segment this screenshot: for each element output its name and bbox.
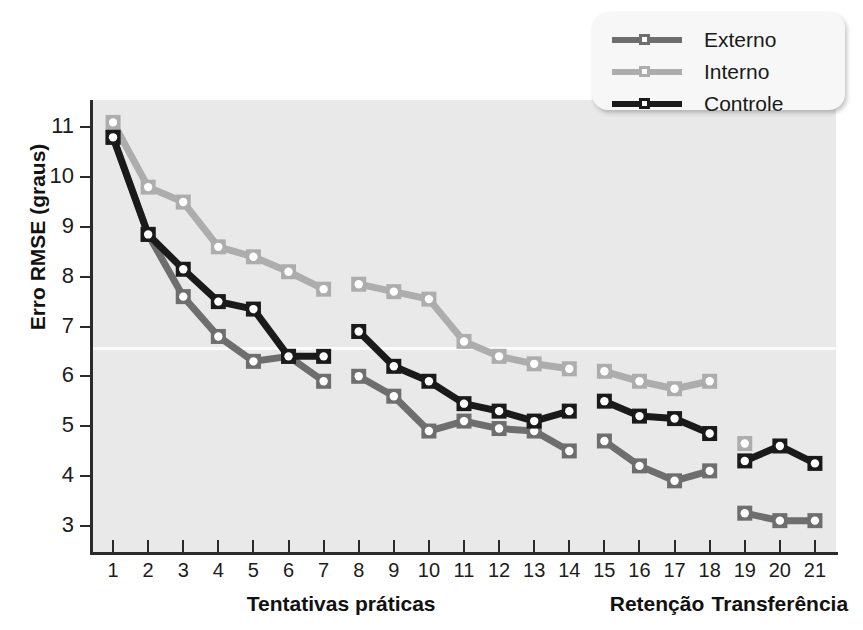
data-point-marker — [214, 297, 222, 305]
data-point-marker — [249, 305, 257, 313]
legend-item-controle[interactable]: Controle — [612, 90, 783, 116]
data-point-marker — [670, 414, 678, 422]
series-line — [604, 441, 709, 481]
data-point-marker — [249, 357, 257, 365]
data-point-marker — [565, 447, 573, 455]
data-point-marker — [670, 477, 678, 485]
data-point-marker — [776, 442, 784, 450]
data-point-marker — [390, 392, 398, 400]
data-point-marker — [284, 268, 292, 276]
series-line — [604, 401, 709, 433]
legend-label-interno: Interno — [704, 61, 769, 82]
data-point-marker — [635, 462, 643, 470]
data-point-marker — [214, 243, 222, 251]
data-point-marker — [600, 367, 608, 375]
data-point-marker — [635, 412, 643, 420]
series-externo — [106, 130, 823, 528]
legend-label-externo: Externo — [704, 29, 776, 50]
legend-swatch-externo — [612, 34, 682, 45]
data-point-marker — [741, 439, 749, 447]
data-point-marker — [249, 253, 257, 261]
data-point-marker — [460, 417, 468, 425]
legend-marker-interno — [639, 66, 650, 77]
data-point-marker — [600, 437, 608, 445]
data-point-marker — [670, 385, 678, 393]
legend-item-interno[interactable]: Interno — [612, 58, 769, 84]
data-point-marker — [425, 295, 433, 303]
data-point-marker — [355, 372, 363, 380]
data-point-marker — [425, 377, 433, 385]
data-point-marker — [284, 352, 292, 360]
legend-label-controle: Controle — [704, 93, 783, 114]
data-point-marker — [811, 516, 819, 524]
data-point-marker — [390, 287, 398, 295]
data-point-marker — [635, 377, 643, 385]
data-point-marker — [495, 407, 503, 415]
data-point-marker — [495, 424, 503, 432]
data-point-marker — [460, 399, 468, 407]
data-point-marker — [109, 133, 117, 141]
legend-swatch-interno — [612, 66, 682, 77]
data-point-marker — [530, 417, 538, 425]
data-point-marker — [741, 509, 749, 517]
data-point-marker — [530, 360, 538, 368]
data-point-marker — [390, 362, 398, 370]
data-point-marker — [776, 516, 784, 524]
data-point-marker — [425, 427, 433, 435]
data-point-marker — [705, 429, 713, 437]
data-point-marker — [179, 198, 187, 206]
data-point-marker — [109, 118, 117, 126]
data-point-marker — [144, 230, 152, 238]
data-point-marker — [319, 285, 327, 293]
data-point-marker — [355, 280, 363, 288]
series-line — [113, 122, 324, 289]
legend-marker-externo — [639, 34, 650, 45]
data-point-marker — [600, 397, 608, 405]
data-point-marker — [705, 467, 713, 475]
series-line — [604, 371, 709, 388]
legend-marker-controle — [639, 98, 650, 109]
data-point-marker — [355, 327, 363, 335]
data-point-marker — [565, 365, 573, 373]
data-point-marker — [179, 292, 187, 300]
data-point-marker — [319, 377, 327, 385]
data-point-marker — [179, 265, 187, 273]
data-point-marker — [741, 457, 749, 465]
data-point-marker — [565, 407, 573, 415]
legend-item-externo[interactable]: Externo — [612, 26, 776, 52]
chart-figure: 34567891011 Erro RMSE (graus) 1234567891… — [0, 0, 863, 630]
legend: Externo Interno Controle — [592, 12, 845, 110]
data-point-marker — [214, 332, 222, 340]
data-point-marker — [705, 377, 713, 385]
data-point-marker — [460, 337, 468, 345]
data-point-marker — [811, 459, 819, 467]
legend-swatch-controle — [612, 98, 682, 109]
data-point-marker — [319, 352, 327, 360]
data-point-marker — [144, 183, 152, 191]
data-point-marker — [495, 352, 503, 360]
